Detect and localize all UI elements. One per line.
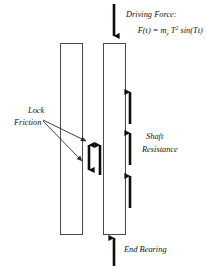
shaft-resistance-label-line2: Resistance xyxy=(141,145,178,154)
driving-force-title: Driving Force: xyxy=(125,10,177,19)
pile-force-diagram: Driving Force: F(t) = mr T2 sin(Tt) Lock… xyxy=(0,0,207,267)
right-pile-section xyxy=(104,44,126,235)
shaft-resistance-label-line1: Shaft xyxy=(146,132,164,141)
driving-force-formula: F(t) = mr T2 sin(Tt) xyxy=(123,25,207,37)
formula-suffix: sin(Tt) xyxy=(178,26,203,35)
end-bearing-label: End Bearing xyxy=(123,245,167,254)
left-pile-section xyxy=(61,44,83,235)
lock-friction-label-line1: Lock xyxy=(27,106,45,115)
formula-prefix: F(t) = m xyxy=(137,26,167,35)
lock-friction-label-line2: Friction xyxy=(13,118,41,127)
diagram-canvas: Driving Force: F(t) = mr T2 sin(Tt) Lock… xyxy=(0,0,207,267)
